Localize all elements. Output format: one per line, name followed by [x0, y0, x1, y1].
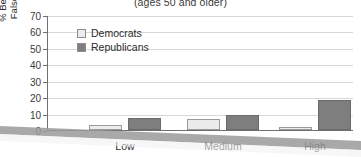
y-tick-mark: [43, 131, 47, 132]
bar-chart-figure: (ages 50 and older) % Believing Falsehoo…: [0, 0, 361, 157]
y-tick-label: 30: [30, 76, 41, 87]
legend-item-democrats: Democrats: [77, 27, 149, 41]
y-tick-label: 50: [30, 43, 41, 54]
bar-democrats-high: [279, 127, 312, 130]
y-axis-title: % Believing Falsehood: [0, 0, 19, 36]
bar-democrats-low: [89, 125, 122, 130]
bar-group-high: [279, 15, 351, 130]
legend-swatch-democrats: [77, 29, 86, 38]
chart-legend: Democrats Republicans: [77, 27, 149, 54]
bar-republicans-medium: [226, 115, 259, 130]
legend-label-republicans: Republicans: [91, 41, 149, 55]
legend-swatch-republicans: [77, 43, 86, 52]
y-tick-label: 20: [30, 93, 41, 104]
y-tick-label: 0: [35, 126, 41, 137]
legend-item-republicans: Republicans: [77, 41, 149, 55]
x-axis-label-low: Low: [89, 140, 161, 152]
y-tick-label: 10: [30, 109, 41, 120]
bar-group-medium: [187, 15, 259, 130]
y-axis-title-line2: Falsehood: [9, 0, 20, 36]
y-tick-label: 70: [30, 11, 41, 22]
legend-label-democrats: Democrats: [91, 27, 142, 41]
bar-republicans-high: [318, 100, 351, 130]
bar-republicans-low: [128, 118, 161, 130]
chart-title: (ages 50 and older): [0, 0, 361, 8]
bar-democrats-medium: [187, 119, 220, 131]
x-axis-label-medium: Medium: [187, 140, 259, 152]
x-axis-label-high: High: [279, 140, 351, 152]
y-tick-label: 40: [30, 60, 41, 71]
y-tick-label: 60: [30, 27, 41, 38]
